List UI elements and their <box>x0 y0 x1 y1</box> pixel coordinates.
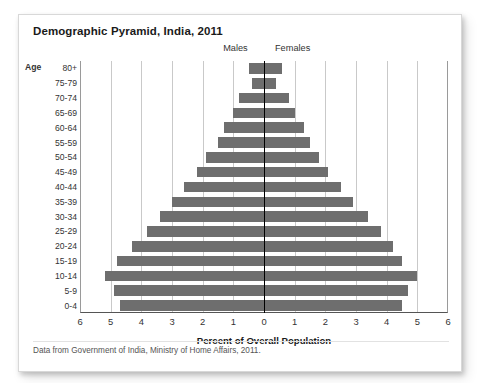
age-group-label: 40-44 <box>55 182 77 192</box>
legend-label-males: Males <box>223 43 257 53</box>
age-group-label: 50-54 <box>55 152 77 162</box>
bar-female <box>264 63 282 74</box>
age-group-label: 0-4 <box>65 301 77 311</box>
bar-male <box>239 93 264 104</box>
bar-male <box>147 226 264 237</box>
bar-male <box>218 137 264 148</box>
bar-male <box>172 197 264 208</box>
age-group-label: 35-39 <box>55 197 77 207</box>
screenshot-root: Demographic Pyramid, India, 2011 Age 80+… <box>0 0 478 383</box>
bar-male <box>224 122 264 133</box>
age-group-label: 60-64 <box>55 123 77 133</box>
bar-male <box>117 256 264 267</box>
age-group-label: 80+ <box>62 63 77 73</box>
age-group-label: 70-74 <box>55 93 77 103</box>
bar-male <box>249 63 264 74</box>
age-group-label: 75-79 <box>55 78 77 88</box>
bar-female <box>264 152 319 163</box>
bar-male <box>197 167 264 178</box>
x-tick-label: 1 <box>292 316 297 327</box>
chart-card: Demographic Pyramid, India, 2011 Age 80+… <box>18 14 462 372</box>
age-group-label: 15-19 <box>55 256 77 266</box>
bar-male <box>114 285 264 296</box>
x-tick-label: 1 <box>231 316 236 327</box>
source-footnote: Data from Government of India, Ministry … <box>33 346 261 355</box>
bar-female <box>264 182 341 193</box>
bar-female <box>264 197 353 208</box>
age-group-label: 65-69 <box>55 108 77 118</box>
x-tick-label: 5 <box>415 316 420 327</box>
bar-female <box>264 285 408 296</box>
x-tick-label: 3 <box>353 316 358 327</box>
age-group-label: 25-29 <box>55 226 77 236</box>
bar-female <box>264 137 310 148</box>
x-tick-label: 3 <box>169 316 174 327</box>
x-tick-label: 2 <box>200 316 205 327</box>
x-tick-label: 6 <box>445 316 450 327</box>
bar-female <box>264 78 276 89</box>
x-tick-label: 5 <box>108 316 113 327</box>
x-tick-label: 4 <box>139 316 144 327</box>
age-group-label: 10-14 <box>55 271 77 281</box>
x-tick-label: 2 <box>323 316 328 327</box>
bar-female <box>264 256 402 267</box>
bar-male <box>252 78 264 89</box>
bar-female <box>264 108 295 119</box>
bar-male <box>206 152 264 163</box>
chart-title: Demographic Pyramid, India, 2011 <box>33 25 223 37</box>
age-group-label: 5-9 <box>65 286 77 296</box>
x-tick-label: 0 <box>261 316 266 327</box>
bar-female <box>264 167 328 178</box>
x-tick-label: 4 <box>384 316 389 327</box>
bar-male <box>132 241 264 252</box>
age-group-label: 55-59 <box>55 138 77 148</box>
age-group-label: 20-24 <box>55 241 77 251</box>
x-tick-label: 6 <box>77 316 82 327</box>
age-label-column: 80+75-7970-7465-6960-6455-5950-5445-4940… <box>25 61 77 313</box>
age-group-label: 30-34 <box>55 212 77 222</box>
bar-female <box>264 271 417 282</box>
legend-label-females: Females <box>264 43 310 53</box>
bar-female <box>264 122 304 133</box>
bar-female <box>264 241 393 252</box>
bar-female <box>264 93 289 104</box>
bar-female <box>264 300 402 311</box>
footnote-divider <box>33 341 449 342</box>
bar-female <box>264 226 381 237</box>
zero-axis-line <box>264 61 265 313</box>
bar-male <box>160 211 264 222</box>
plot-area: Males Females 6543210123456 Percent of O… <box>80 61 448 313</box>
bar-female <box>264 211 368 222</box>
bar-male <box>105 271 264 282</box>
age-group-label: 45-49 <box>55 167 77 177</box>
bar-male <box>233 108 264 119</box>
bar-male <box>184 182 264 193</box>
bar-male <box>120 300 264 311</box>
